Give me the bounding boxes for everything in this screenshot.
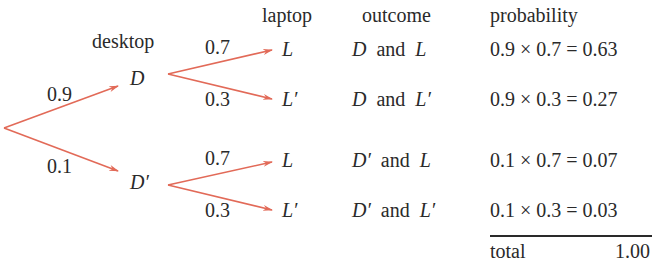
outcome-row-3: D′ and L bbox=[352, 150, 431, 170]
header-laptop: laptop bbox=[262, 5, 312, 25]
branch-prob-Dprime-Lprime: 0.3 bbox=[205, 200, 230, 220]
sum-rule-divider bbox=[490, 235, 652, 237]
node-Dprime-Lprime: L′ bbox=[282, 200, 298, 220]
outcome-b: L bbox=[415, 38, 426, 60]
outcome-row-1: D and L bbox=[352, 39, 426, 59]
probability-row-4: 0.1 × 0.3 = 0.03 bbox=[490, 200, 618, 220]
outcome-conj: and bbox=[376, 88, 405, 110]
outcome-a: D bbox=[352, 38, 366, 60]
probability-row-1: 0.9 × 0.7 = 0.63 bbox=[490, 39, 618, 59]
branch-prob-D-Lprime: 0.3 bbox=[205, 89, 230, 109]
outcome-b: L′ bbox=[420, 199, 436, 221]
header-probability: probability bbox=[490, 5, 578, 25]
probability-row-2: 0.9 × 0.3 = 0.27 bbox=[490, 89, 618, 109]
outcome-row-2: D and L′ bbox=[352, 89, 431, 109]
total-label: total bbox=[490, 241, 526, 261]
probability-tree-diagram: desktop laptop outcome probability 0.9 0… bbox=[0, 0, 664, 270]
branch-prob-D: 0.9 bbox=[47, 84, 72, 104]
outcome-conj: and bbox=[376, 38, 405, 60]
node-D-Lprime: L′ bbox=[282, 89, 298, 109]
branch-prob-D-L: 0.7 bbox=[205, 37, 230, 57]
branch-prob-Dprime-L: 0.7 bbox=[205, 148, 230, 168]
node-Dprime-L: L bbox=[282, 150, 293, 170]
outcome-a: D bbox=[352, 88, 366, 110]
branch-prob-Dprime: 0.1 bbox=[47, 156, 72, 176]
outcome-conj: and bbox=[381, 149, 410, 171]
outcome-a: D′ bbox=[352, 199, 371, 221]
header-outcome: outcome bbox=[362, 5, 431, 25]
outcome-b: L bbox=[420, 149, 431, 171]
outcome-a: D′ bbox=[352, 149, 371, 171]
node-Dprime: D′ bbox=[130, 172, 149, 192]
node-D: D bbox=[130, 68, 144, 88]
outcome-row-4: D′ and L′ bbox=[352, 200, 435, 220]
outcome-conj: and bbox=[381, 199, 410, 221]
header-desktop: desktop bbox=[92, 31, 154, 51]
probability-row-3: 0.1 × 0.7 = 0.07 bbox=[490, 150, 618, 170]
outcome-b: L′ bbox=[415, 88, 431, 110]
node-D-L: L bbox=[282, 39, 293, 59]
total-value: 1.00 bbox=[615, 241, 650, 261]
